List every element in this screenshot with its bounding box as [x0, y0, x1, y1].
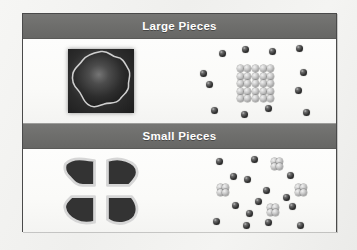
panel-large-pieces — [23, 39, 336, 123]
free-particle — [283, 194, 290, 201]
free-particle — [213, 218, 220, 225]
grid-particle — [244, 73, 251, 80]
free-particle — [211, 107, 218, 114]
free-particle — [206, 81, 213, 88]
free-particle — [265, 105, 272, 112]
free-particle — [295, 87, 302, 94]
grid-particle — [252, 65, 259, 72]
grid-particle — [267, 65, 274, 72]
section-large-pieces: Large Pieces — [23, 14, 336, 123]
grid-particle — [244, 88, 251, 95]
section-title-small-pieces: Small Pieces — [143, 130, 217, 142]
grid-particle — [267, 80, 274, 87]
scattered-particle-clusters-with-free-particles-icon — [199, 152, 317, 230]
grid-particle — [252, 88, 259, 95]
ordered-particle-grid-with-free-particles-icon — [199, 43, 317, 119]
free-particle — [230, 173, 237, 180]
panel-small-pieces-right — [180, 149, 337, 232]
panel-large-pieces-right — [180, 39, 337, 123]
free-particle — [243, 222, 250, 229]
grid-particle — [237, 73, 244, 80]
free-particle — [265, 219, 272, 226]
free-particle — [289, 203, 296, 210]
free-particle — [246, 210, 253, 217]
free-particle — [241, 111, 248, 118]
grid-particle — [252, 80, 259, 87]
grid-particle — [244, 65, 251, 72]
particle-cluster — [271, 158, 285, 172]
grid-particle — [252, 73, 259, 80]
grid-particle — [237, 65, 244, 72]
free-particle — [303, 109, 310, 116]
free-particle — [297, 222, 304, 229]
grid-particle — [260, 73, 267, 80]
blob-quarter-bottom-right — [104, 193, 140, 225]
cluster-particle — [272, 209, 279, 216]
grid-particle — [237, 95, 244, 102]
panel-small-pieces-left — [23, 149, 180, 232]
blob-quarter-bottom-left — [62, 193, 98, 225]
free-particle — [244, 176, 251, 183]
section-small-pieces: Small Pieces — [23, 124, 336, 232]
free-particle — [219, 50, 226, 57]
free-particle — [300, 69, 307, 76]
cluster-particle — [222, 189, 229, 196]
grid-particle — [267, 73, 274, 80]
grid-particle — [260, 65, 267, 72]
blob-quarter-top-left — [62, 157, 98, 189]
free-particle — [242, 46, 249, 53]
blob-quarter-top-right — [104, 157, 140, 189]
cluster-particle — [276, 163, 283, 170]
grid-particle — [267, 88, 274, 95]
grid-particle — [244, 95, 251, 102]
free-particle — [200, 70, 207, 77]
figure-frame: Large Pieces — [22, 13, 337, 232]
single-large-solid-blob-icon — [68, 49, 134, 113]
section-header-small-pieces: Small Pieces — [23, 124, 336, 149]
grid-particle — [260, 95, 267, 102]
free-particle — [296, 45, 303, 52]
particle-cluster — [217, 184, 231, 198]
cluster-particle — [300, 189, 307, 196]
free-particle — [216, 158, 223, 165]
particle-cluster — [295, 184, 309, 198]
grid-particle — [237, 80, 244, 87]
grid-particle — [260, 88, 267, 95]
panel-large-pieces-left — [23, 39, 180, 123]
free-particle — [269, 48, 276, 55]
free-particle — [255, 198, 262, 205]
particle-cluster — [267, 204, 281, 218]
grid-particle — [260, 80, 267, 87]
grid-particle — [252, 95, 259, 102]
free-particle — [263, 187, 270, 194]
quartered-solid-blob-icon — [62, 157, 140, 225]
free-particle — [232, 202, 239, 209]
grid-particle — [267, 95, 274, 102]
free-particle — [287, 172, 294, 179]
free-particle — [251, 156, 258, 163]
panel-small-pieces — [23, 149, 336, 232]
grid-particle — [237, 88, 244, 95]
section-header-large-pieces: Large Pieces — [23, 14, 336, 39]
grid-particle — [244, 80, 251, 87]
section-title-large-pieces: Large Pieces — [142, 20, 217, 32]
